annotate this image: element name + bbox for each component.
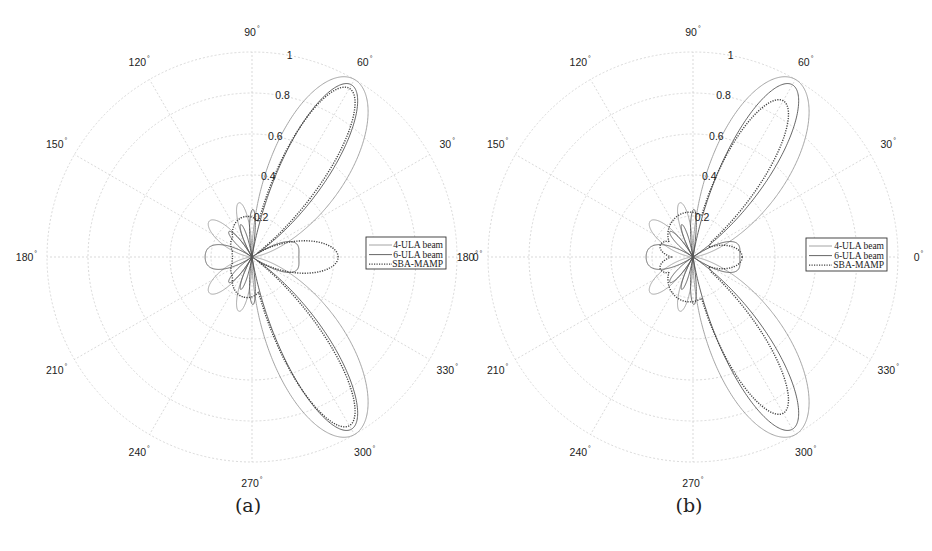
angle-label-300: 300°: [795, 445, 817, 458]
series-group: [205, 77, 368, 438]
legend-label: 4-ULA beam: [393, 240, 443, 250]
angle-label-90: 90°: [244, 25, 260, 38]
angle-label-120: 120°: [570, 55, 592, 68]
grid-spoke: [591, 79, 694, 257]
angle-label-270: 270°: [682, 476, 704, 489]
grid-spoke: [74, 155, 252, 258]
angle-label-90: 90°: [685, 25, 701, 38]
grid-spoke: [591, 257, 694, 435]
series-group: [646, 77, 809, 438]
angle-label-60: 60°: [357, 55, 373, 68]
angle-label-150: 150°: [487, 137, 509, 150]
panel-caption: (b): [676, 494, 703, 516]
radial-tick-label: 0.8: [275, 89, 290, 101]
angle-label-120: 120°: [129, 55, 151, 68]
legend-label: 4-ULA beam: [834, 241, 884, 251]
angle-label-330: 330°: [878, 363, 900, 376]
radial-tick-label: 0.2: [695, 211, 710, 223]
legend-label: 6-ULA beam: [393, 250, 443, 260]
angle-label-330: 330°: [437, 363, 459, 376]
radial-tick-label: 0.2: [254, 211, 269, 223]
polar-plot-b: 0.20.40.60.810°30°60°90°120°150°180°210°…: [457, 25, 924, 517]
angle-label-240: 240°: [129, 445, 151, 458]
angle-label-0: 0°: [914, 250, 924, 263]
radial-tick-label: 0.8: [716, 89, 731, 101]
radial-tick-label: 0.4: [261, 170, 276, 182]
legend: 4-ULA beam6-ULA beamSBA-MAMP: [806, 238, 887, 271]
figure: 0.20.40.60.810°30°60°90°120°150°180°210°…: [0, 0, 932, 551]
grid-spoke: [150, 257, 253, 435]
legend-label: 6-ULA beam: [834, 251, 884, 261]
legend-label: SBA-MAMP: [392, 259, 443, 269]
angle-label-240: 240°: [570, 445, 592, 458]
angle-label-30: 30°: [881, 137, 897, 150]
grid-spoke: [252, 257, 430, 360]
angle-label-30: 30°: [440, 137, 456, 150]
panel-caption: (a): [235, 494, 261, 516]
radial-tick-label: 1: [287, 49, 293, 61]
polar-plot-a: 0.20.40.60.810°30°60°90°120°150°180°210°…: [16, 25, 483, 517]
angle-label-60: 60°: [798, 55, 814, 68]
radial-tick-label: 0.6: [709, 130, 724, 142]
grid-spoke: [150, 79, 253, 257]
angle-label-180: 180°: [16, 250, 38, 263]
angle-label-210: 210°: [487, 363, 509, 376]
grid-spoke: [693, 257, 871, 360]
angle-label-270: 270°: [241, 476, 263, 489]
radial-tick-label: 0.4: [702, 170, 717, 182]
grid-spoke: [74, 257, 252, 360]
angle-label-150: 150°: [46, 137, 68, 150]
legend: 4-ULA beam6-ULA beamSBA-MAMP: [366, 237, 446, 269]
angle-label-300: 300°: [354, 445, 376, 458]
angle-label-210: 210°: [46, 363, 68, 376]
legend-label: SBA-MAMP: [833, 260, 884, 270]
radial-tick-label: 1: [728, 49, 734, 61]
radial-tick-label: 0.6: [268, 130, 283, 142]
